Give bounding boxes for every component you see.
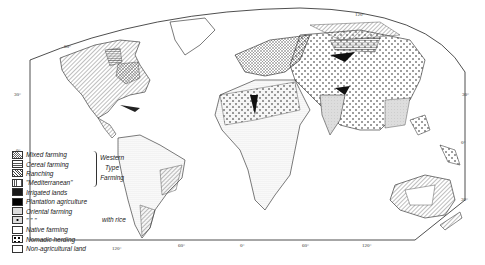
greenland	[170, 18, 215, 55]
map-legend: Mixed farming Cereal farming Ranching "M…	[12, 150, 150, 253]
svg-text:120°: 120°	[355, 12, 365, 17]
svg-text:0°: 0°	[240, 243, 245, 248]
svg-text:30°: 30°	[14, 92, 21, 97]
legend-item: Nomadic herding	[12, 235, 150, 244]
blank-swatch-icon	[12, 245, 23, 253]
svg-text:0°: 0°	[461, 140, 466, 145]
svg-text:30°: 30°	[462, 92, 469, 97]
legend-item: Plantation agriculture	[12, 197, 150, 206]
gray-dot-swatch-icon	[12, 216, 23, 224]
svg-text:60°: 60°	[302, 243, 309, 248]
legend-item: Irrigated lands	[12, 188, 150, 197]
india	[320, 95, 345, 135]
svg-text:60°: 60°	[64, 44, 71, 49]
vertical-lines-swatch-icon	[12, 179, 23, 187]
legend-item: "Mediterranean"	[12, 178, 150, 187]
svg-text:120°: 120°	[362, 243, 372, 248]
legend-item: " " "with rice	[12, 216, 150, 225]
light-gray-swatch-icon	[12, 207, 23, 215]
solid-dark-swatch-icon	[12, 188, 23, 196]
svg-text:30°: 30°	[461, 197, 468, 202]
legend-item: Cereal farming	[12, 159, 150, 168]
fine-dots-swatch-icon	[12, 226, 23, 234]
legend-bracket	[92, 151, 97, 187]
svg-text:60°: 60°	[178, 243, 185, 248]
large-dots-swatch-icon	[12, 235, 23, 243]
legend-item: Ranching	[12, 169, 150, 178]
legend-item: Native farming	[12, 225, 150, 234]
crosshatch-swatch-icon	[12, 151, 23, 159]
legend-item: Mixed farming	[12, 150, 150, 159]
western-type-farming-label: Western Type Farming	[100, 153, 124, 183]
solid-black-swatch-icon	[12, 198, 23, 206]
legend-item: Non-agricultural land	[12, 244, 150, 253]
diagonal-lines-swatch-icon	[12, 169, 23, 177]
legend-item: Oriental farming	[12, 206, 150, 215]
horizontal-lines-swatch-icon	[12, 160, 23, 168]
